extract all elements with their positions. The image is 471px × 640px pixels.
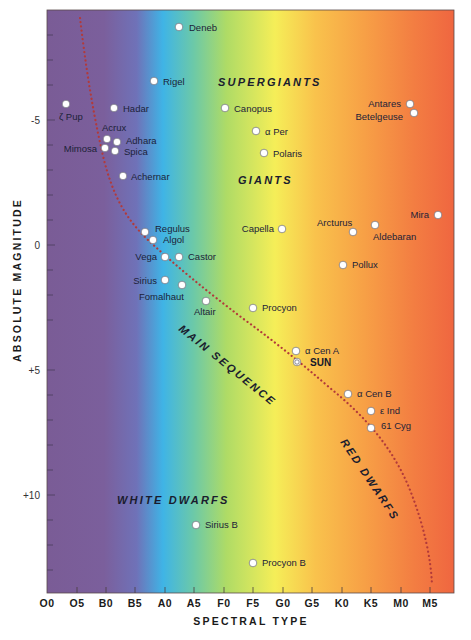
star-label: 61 Cyg xyxy=(381,420,411,431)
star-label: Mira xyxy=(411,209,430,220)
star-marker-icon xyxy=(344,390,352,398)
star-label: Fomalhaut xyxy=(139,291,184,302)
giants-label: GIANTS xyxy=(238,174,293,186)
star-marker-icon xyxy=(149,236,157,244)
x-tick-label: B5 xyxy=(128,597,142,609)
star-marker-icon xyxy=(349,228,357,236)
y-tick-label: 0 xyxy=(34,240,40,251)
star-label: Algol xyxy=(163,234,184,245)
star-label: Vega xyxy=(135,251,157,262)
star-marker-icon xyxy=(178,281,186,289)
star-marker-icon xyxy=(175,253,183,261)
star-marker-icon xyxy=(141,228,149,236)
x-tick-label: F5 xyxy=(246,597,259,609)
star-label: Procyon B xyxy=(262,557,306,568)
star-label: Altair xyxy=(194,306,216,317)
star-marker-icon xyxy=(371,221,379,229)
star-marker-icon xyxy=(101,144,109,152)
star-label: Rigel xyxy=(163,76,185,87)
star-label: Castor xyxy=(188,251,216,262)
y-tick-label: +5 xyxy=(29,365,41,376)
white-dwarfs-label: WHITE DWARFS xyxy=(117,494,230,506)
star-label: Polaris xyxy=(273,148,302,159)
x-tick-label: B0 xyxy=(99,597,113,609)
star-marker-icon xyxy=(367,424,375,432)
x-tick-label: G5 xyxy=(304,597,319,609)
star-label: Arcturus xyxy=(317,217,353,228)
star-label: Adhara xyxy=(126,135,157,146)
star-marker-icon xyxy=(367,407,375,415)
star-marker-icon xyxy=(113,138,121,146)
star-label: Achernar xyxy=(131,171,170,182)
star-label: Canopus xyxy=(234,103,272,114)
x-tick-label: A0 xyxy=(158,597,172,609)
star-label: α Cen B xyxy=(357,388,392,399)
y-axis-title: ABSOLUTE MAGNITUDE xyxy=(11,198,23,362)
y-tick-labels: -5 0 +5 +10 xyxy=(23,115,40,501)
y-tick-label: +10 xyxy=(23,490,40,501)
star-label: SUN xyxy=(310,357,331,368)
star-marker-icon xyxy=(339,261,347,269)
x-axis-title: SPECTRAL TYPE xyxy=(193,615,308,627)
x-tick-label: M0 xyxy=(393,597,409,609)
star-marker-icon xyxy=(260,149,268,157)
star-label: Regulus xyxy=(155,223,190,234)
star-label: Procyon xyxy=(262,302,297,313)
star-marker-icon xyxy=(150,77,158,85)
star-label: ε Ind xyxy=(380,405,400,416)
star-marker-icon xyxy=(103,135,111,143)
star-label: Antares xyxy=(368,98,401,109)
star-label: Hadar xyxy=(123,103,149,114)
star-marker-icon xyxy=(434,211,442,219)
supergiants-label: SUPERGIANTS xyxy=(218,76,322,88)
star-marker-icon xyxy=(249,304,257,312)
star-label: Capella xyxy=(242,223,275,234)
star-marker-icon xyxy=(62,100,70,108)
x-tick-labels: O0 O5 B0 B5 A0 A5 F0 F5 G0 G5 K0 K5 M0 M… xyxy=(39,597,437,609)
x-tick-label: K0 xyxy=(335,597,349,609)
star-marker-icon xyxy=(252,127,260,135)
star-label: Spica xyxy=(124,146,148,157)
x-tick-label: O5 xyxy=(69,597,84,609)
star-marker-icon xyxy=(221,104,229,112)
star-label: Mimosa xyxy=(64,143,98,154)
star-label: Aldebaran xyxy=(373,231,416,242)
hr-diagram: -5 0 +5 +10 ABSOLUTE MAGNITUDE O0 O5 B0 … xyxy=(0,0,471,640)
star-label: Sirius xyxy=(133,275,157,286)
star-label: Acrux xyxy=(102,122,127,133)
x-tick-label: A5 xyxy=(187,597,201,609)
x-tick-label: F0 xyxy=(217,597,230,609)
star-label: α Cen A xyxy=(305,345,340,356)
star-marker-icon xyxy=(202,297,210,305)
star-label: Deneb xyxy=(189,22,217,33)
star-marker-icon xyxy=(278,225,286,233)
star-marker-icon xyxy=(410,109,418,117)
x-tick-label: K5 xyxy=(364,597,378,609)
star-marker-icon xyxy=(161,253,169,261)
star-marker-icon xyxy=(110,104,118,112)
star-marker-icon xyxy=(192,521,200,529)
star-marker-icon xyxy=(406,100,414,108)
star-marker-icon xyxy=(119,172,127,180)
y-tick-label: -5 xyxy=(31,115,40,126)
star-marker-icon xyxy=(161,276,169,284)
x-tick-label: M5 xyxy=(422,597,438,609)
star-label: Betelgeuse xyxy=(355,111,403,122)
star-label: Sirius B xyxy=(205,519,238,530)
x-tick-label: G0 xyxy=(275,597,290,609)
star-label: Pollux xyxy=(352,259,378,270)
star-label: α Per xyxy=(265,126,288,137)
star-marker-icon xyxy=(249,559,257,567)
star-label: ζ Pup xyxy=(59,111,83,122)
star-marker-icon xyxy=(111,147,119,155)
star-marker-icon xyxy=(293,358,301,366)
x-tick-label: O0 xyxy=(39,597,54,609)
star-marker-icon xyxy=(292,347,300,355)
star-marker-icon xyxy=(175,23,183,31)
